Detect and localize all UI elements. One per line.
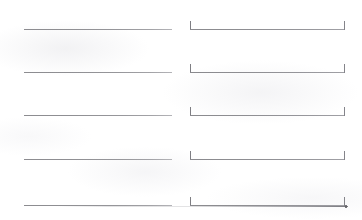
- plain-fill-in-field[interactable]: [24, 104, 172, 116]
- bracket-close-icon: [344, 21, 345, 30]
- field-underline: [190, 159, 345, 160]
- field-underline: [190, 115, 345, 116]
- bracketed-fill-in-field[interactable]: [190, 61, 345, 73]
- plain-fill-in-field[interactable]: [24, 61, 172, 73]
- bracketed-fill-in-field[interactable]: [190, 194, 345, 206]
- field-underline: [190, 72, 345, 73]
- table-row: [0, 102, 362, 116]
- plain-fill-in-field[interactable]: [24, 148, 172, 160]
- table-row: [0, 146, 362, 160]
- field-underline: [24, 159, 172, 160]
- form-rows-container: [0, 0, 362, 220]
- bracket-close-icon: [344, 151, 345, 160]
- field-underline: [190, 29, 345, 30]
- field-underline: [24, 115, 172, 116]
- plain-fill-in-field[interactable]: [24, 194, 172, 206]
- bracketed-fill-in-field[interactable]: [190, 18, 345, 30]
- table-row: [0, 192, 362, 206]
- table-row: [0, 16, 362, 30]
- bracket-close-icon: [344, 64, 345, 73]
- bottom-edge-artifact: [56, 206, 348, 207]
- field-underline: [24, 29, 172, 30]
- bracketed-fill-in-field[interactable]: [190, 148, 345, 160]
- bottom-edge-artifact-cap: [345, 205, 347, 208]
- field-underline: [24, 72, 172, 73]
- bracketed-fill-in-field[interactable]: [190, 104, 345, 116]
- form-sheet: [0, 0, 362, 220]
- bracket-close-icon: [344, 107, 345, 116]
- plain-fill-in-field[interactable]: [24, 18, 172, 30]
- table-row: [0, 59, 362, 73]
